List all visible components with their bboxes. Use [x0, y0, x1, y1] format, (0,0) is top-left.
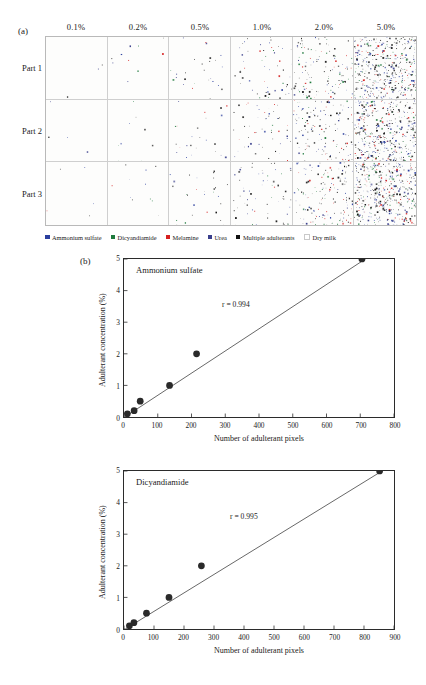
y-tick-label: 2 [110, 350, 120, 359]
data-point [137, 398, 144, 405]
chart-1-plot-area [123, 258, 395, 418]
y-tick-label: 1 [110, 382, 120, 391]
chart-dicyandiamide: Adulterant concentration (%) Dicyandiami… [0, 462, 426, 672]
chart-1-x-axis-label: Number of adulterant pixels [123, 434, 395, 443]
data-point [143, 610, 150, 617]
legend-item-ammonium-sulfate: Ammonium sulfate [45, 234, 102, 241]
legend-label: Melamine [173, 234, 199, 241]
data-point [198, 562, 205, 569]
legend-swatch-icon [208, 235, 213, 240]
col-header-5: 5.0% [355, 22, 417, 35]
chart-ammonium-sulfate: (b) Adulterant concentration (%) Ammoniu… [0, 252, 426, 452]
speckle-layer [108, 37, 169, 99]
grid-cell-part2-conc6 [354, 100, 416, 163]
legend-label: Dicyandiamide [118, 234, 157, 241]
speckle-layer [231, 100, 292, 162]
chart-2-svg [124, 471, 394, 629]
chart-1-title: Ammonium sulfate [136, 265, 203, 275]
legend-swatch-icon [236, 235, 241, 240]
panel-b-letter: (b) [80, 256, 91, 266]
legend-label: Ammonium sulfate [52, 234, 102, 241]
x-tick-label: 200 [185, 421, 196, 430]
legend-swatch-icon [304, 234, 311, 241]
data-point [124, 410, 131, 417]
x-tick-label: 400 [238, 633, 249, 642]
chart-1-svg [124, 259, 394, 417]
grid-cell-part3-conc1 [46, 162, 108, 225]
grid-cell-part1-conc4 [231, 37, 293, 100]
col-header-4: 2.0% [293, 22, 355, 35]
y-tick-label: 5 [110, 254, 120, 263]
row-label-part-1: Part 1 [8, 36, 44, 99]
x-tick-label: 400 [253, 421, 264, 430]
part-row-labels: Part 1 Part 2 Part 3 [8, 36, 44, 226]
col-header-2: 0.5% [169, 22, 231, 35]
y-tick-label: 2 [110, 562, 120, 571]
speckle-layer [169, 162, 230, 225]
chart-2-correlation-annotation: r = 0.995 [230, 512, 258, 521]
y-tick-label: 0 [110, 626, 120, 635]
speckle-layer [169, 37, 230, 99]
grid-cell-part2-conc3 [169, 100, 231, 163]
x-tick-label: 900 [389, 633, 400, 642]
y-tick-label: 3 [110, 530, 120, 539]
speckle-layer [108, 100, 169, 162]
legend-label: Multiple adulterants [243, 234, 295, 241]
speckle-layer [354, 100, 416, 162]
grid-cell-part3-conc5 [293, 162, 355, 225]
row-label-part-2: Part 2 [8, 99, 44, 162]
x-tick-label: 600 [321, 421, 332, 430]
legend-swatch-icon [45, 235, 50, 240]
data-point [166, 382, 173, 389]
y-tick-label: 1 [110, 594, 120, 603]
grid-cell-part2-conc1 [46, 100, 108, 163]
speckle-layer [231, 162, 292, 225]
legend-label: Urea [215, 234, 227, 241]
grid-cell-part2-conc2 [108, 100, 170, 163]
y-tick-label: 0 [110, 414, 120, 423]
x-tick-label: 500 [287, 421, 298, 430]
speckle-layer [231, 37, 292, 99]
chart-2-title: Dicyandiamide [136, 477, 189, 487]
x-tick-label: 100 [148, 633, 159, 642]
speckle-layer [293, 37, 354, 99]
speckle-layer [293, 162, 354, 225]
chart-2-y-axis-label: Adulterant concentration (%) [98, 472, 107, 632]
grid-cell-part3-conc6 [354, 162, 416, 225]
speckle-layer [169, 100, 230, 162]
grid-cell-part1-conc6 [354, 37, 416, 100]
grid-cell-part2-conc4 [231, 100, 293, 163]
data-point [193, 350, 200, 357]
grid-cell-part1-conc5 [293, 37, 355, 100]
speckle-layer [46, 100, 107, 162]
grid-cell-part1-conc1 [46, 37, 108, 100]
x-tick-label: 300 [219, 421, 230, 430]
legend-item-dicyandiamide: Dicyandiamide [111, 234, 157, 241]
legend-item-multiple-adulterants: Multiple adulterants [236, 234, 295, 241]
data-point [166, 594, 173, 601]
x-tick-label: 100 [151, 421, 162, 430]
x-tick-label: 200 [178, 633, 189, 642]
adulterant-detection-image-grid [45, 36, 417, 226]
speckle-layer [46, 37, 107, 99]
grid-cell-part1-conc2 [108, 37, 170, 100]
legend-item-urea: Urea [208, 234, 227, 241]
speckle-layer [46, 162, 107, 225]
grid-cell-part3-conc2 [108, 162, 170, 225]
x-tick-label: 0 [121, 421, 125, 430]
legend-item-dry-milk: Dry milk [304, 234, 336, 241]
y-tick-label: 5 [110, 466, 120, 475]
y-tick-label: 4 [110, 286, 120, 295]
y-tick-label: 4 [110, 498, 120, 507]
chart-2-plot-area [123, 470, 395, 630]
y-tick-label: 3 [110, 318, 120, 327]
x-tick-label: 600 [299, 633, 310, 642]
grid-cell-part3-conc4 [231, 162, 293, 225]
concentration-column-headers: 0.1% 0.2% 0.5% 1.0% 2.0% 5.0% [45, 22, 417, 35]
chart-2-x-axis-label: Number of adulterant pixels [123, 646, 395, 655]
speckle-layer [108, 162, 169, 225]
speckle-layer [354, 162, 416, 225]
adulterant-legend: Ammonium sulfateDicyandiamideMelamineUre… [45, 231, 417, 243]
panel-a-letter: (a) [18, 26, 28, 36]
legend-item-melamine: Melamine [166, 234, 199, 241]
